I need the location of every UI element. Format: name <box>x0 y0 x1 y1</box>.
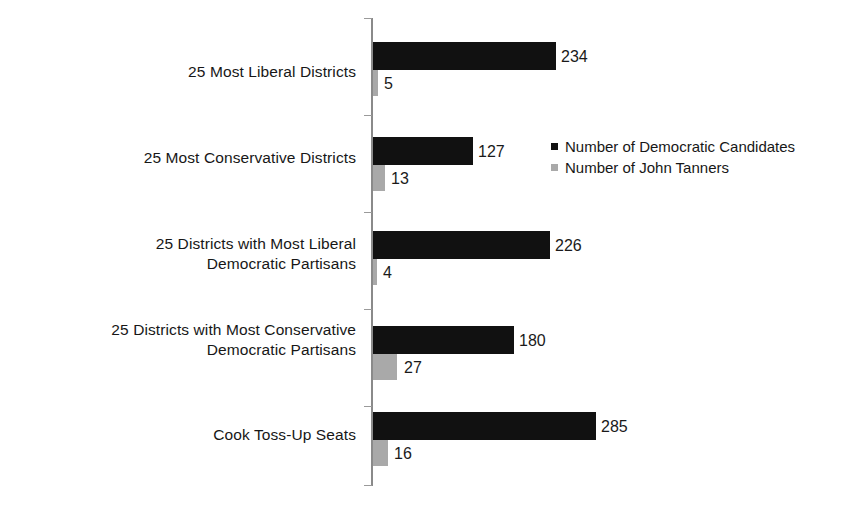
axis-tick-5 <box>364 485 372 486</box>
bar-john-tanners-0 <box>373 70 378 96</box>
bar-chart: 25 Most Liberal Districts 25 Most Conser… <box>0 0 850 505</box>
bar-john-tanners-3 <box>373 354 397 380</box>
axis-tick-1 <box>364 115 372 116</box>
category-axis-labels: 25 Most Liberal Districts 25 Most Conser… <box>0 0 356 505</box>
legend-item-john-tanners: Number of John Tanners <box>551 157 795 178</box>
bar-democratic-candidates-2 <box>373 231 550 259</box>
bar-value-democratic-candidates-2: 226 <box>555 238 582 254</box>
category-label-0: 25 Most Liberal Districts <box>0 62 356 82</box>
bar-value-john-tanners-0: 5 <box>384 76 393 92</box>
plot-area: 234 5 127 13 226 4 180 27 285 16 <box>371 18 831 486</box>
legend-swatch-icon-john-tanners <box>551 164 558 171</box>
bar-value-democratic-candidates-4: 285 <box>601 419 628 435</box>
bar-value-john-tanners-3: 27 <box>404 360 422 376</box>
chart-legend: Number of Democratic Candidates Number o… <box>551 136 795 178</box>
axis-tick-0 <box>364 18 372 19</box>
category-label-2: 25 Districts with Most Liberal Democrati… <box>0 234 356 274</box>
bar-value-john-tanners-4: 16 <box>394 446 412 462</box>
category-label-4: Cook Toss-Up Seats <box>0 425 356 445</box>
bar-value-democratic-candidates-1: 127 <box>478 144 505 160</box>
axis-tick-4 <box>364 406 372 407</box>
category-label-3: 25 Districts with Most Conservative Demo… <box>0 320 356 360</box>
bar-value-john-tanners-2: 4 <box>383 265 392 281</box>
bar-john-tanners-4 <box>373 440 388 466</box>
bar-democratic-candidates-1 <box>373 137 473 165</box>
legend-item-democratic-candidates: Number of Democratic Candidates <box>551 136 795 157</box>
axis-tick-2 <box>364 212 372 213</box>
bar-democratic-candidates-4 <box>373 412 596 440</box>
bar-value-democratic-candidates-0: 234 <box>561 49 588 65</box>
legend-swatch-icon-democratic-candidates <box>551 143 558 150</box>
bar-democratic-candidates-0 <box>373 42 556 70</box>
category-label-1: 25 Most Conservative Districts <box>0 148 356 168</box>
bar-john-tanners-1 <box>373 165 385 191</box>
legend-label-democratic-candidates: Number of Democratic Candidates <box>565 139 795 154</box>
bar-value-democratic-candidates-3: 180 <box>519 333 546 349</box>
bar-value-john-tanners-1: 13 <box>391 171 409 187</box>
axis-tick-3 <box>364 309 372 310</box>
legend-label-john-tanners: Number of John Tanners <box>565 160 729 175</box>
bar-john-tanners-2 <box>373 259 377 285</box>
bar-democratic-candidates-3 <box>373 326 514 354</box>
